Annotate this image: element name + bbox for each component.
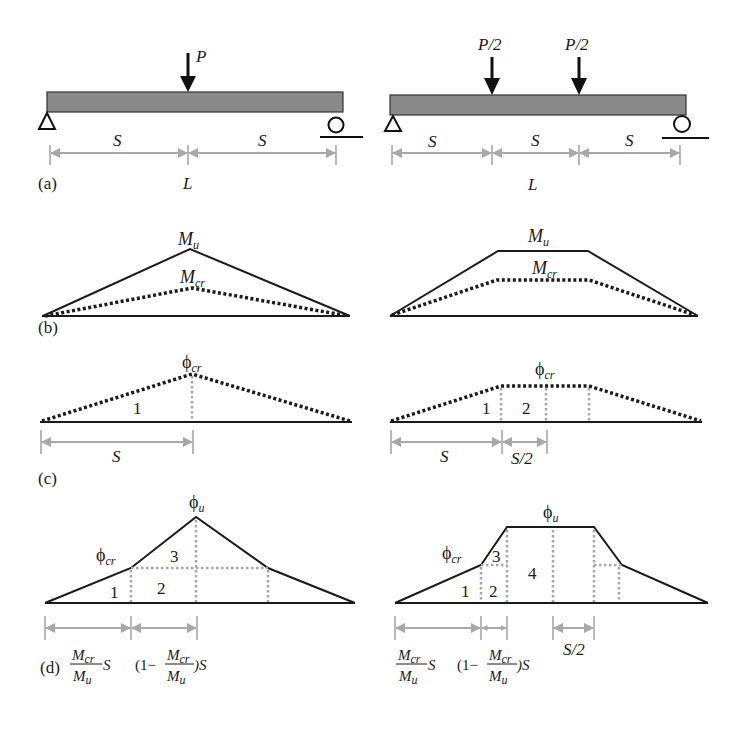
svg-text:Mu: Mu: [166, 668, 186, 687]
beam: [390, 95, 686, 115]
svg-text:Mu: Mu: [72, 668, 92, 687]
span-label: S: [258, 131, 267, 150]
panel-label-c: (c): [38, 469, 57, 488]
region-label: 2: [522, 399, 531, 418]
dim-label: S/2: [511, 449, 533, 468]
phi-cr-label: ϕcr: [96, 545, 116, 568]
load-arrow-icon: [484, 57, 500, 95]
region-label: 3: [170, 547, 179, 566]
dim-label-one-minus-mcr-over-mu-s: (1− Mcr Mu )S: [457, 647, 530, 687]
region-label: 2: [489, 582, 498, 601]
length-label: L: [182, 174, 192, 193]
dim-label-mcr-over-mu-s: Mcr Mu S: [396, 647, 436, 687]
span-label: S: [113, 131, 122, 150]
curvature-line: [395, 527, 708, 603]
panel-b-right-moment-diagram: Mu Mcr: [390, 226, 698, 316]
dim-label-mcr-over-mu-s: Mcr Mu S: [70, 647, 111, 687]
panel-c-right-curvature-diagram: ϕcr 1 2 S S/2: [390, 359, 702, 468]
pin-support-icon: [39, 113, 55, 129]
mcr-label: Mcr: [179, 267, 205, 290]
phi-u-label: ϕu: [543, 502, 558, 525]
panel-a-left-beam: P S S L (a): [38, 47, 363, 193]
load-arrow-icon: [571, 57, 587, 95]
panel-d-left-curvature-diagram: ϕu ϕcr 1 2 3 (d) Mcr Mu S (1− Mcr Mu )S: [40, 492, 355, 687]
svg-text:Mcr: Mcr: [488, 647, 512, 666]
svg-text:(1−: (1−: [135, 657, 156, 674]
dim-label: S: [440, 447, 449, 466]
panel-a-right-beam: P/2 P/2 S S S L: [385, 35, 709, 194]
panel-b-left-moment-diagram: Mu Mcr (b): [38, 229, 350, 337]
svg-text:Mcr: Mcr: [71, 647, 95, 666]
panel-label-a: (a): [38, 174, 57, 193]
dim-label-one-minus-mcr-over-mu-s: (1− Mcr Mu )S: [135, 647, 207, 687]
svg-text:Mcr: Mcr: [166, 647, 190, 666]
beam: [47, 92, 343, 112]
svg-text:)S: )S: [193, 657, 207, 674]
span-label: S: [428, 132, 437, 151]
span-dimension: [50, 145, 336, 165]
roller-support-icon: [320, 118, 363, 138]
region-label: 3: [492, 547, 501, 566]
region-label: 2: [157, 579, 166, 598]
svg-text:Mu: Mu: [398, 668, 418, 687]
length-label: L: [527, 175, 537, 194]
svg-text:S: S: [103, 657, 111, 673]
mu-label: Mu: [527, 226, 549, 249]
mu-label: Mu: [177, 229, 199, 252]
region-label: 1: [482, 399, 491, 418]
svg-text:S: S: [428, 657, 436, 673]
region-label: 1: [110, 583, 119, 602]
beam-curvature-diagram: P S S L (a) P/2 P/2: [0, 0, 742, 729]
phi-cr-label: ϕcr: [442, 543, 462, 566]
phi-cr-label: ϕcr: [535, 359, 555, 382]
curvature-line: [45, 517, 355, 603]
region-label: 1: [461, 582, 470, 601]
panel-d-right-curvature-diagram: ϕu ϕcr 1 2 3 4 S/2 Mcr Mu S (1− Mcr Mu: [395, 502, 708, 687]
roller-support-icon: [662, 116, 709, 138]
load-label: P/2: [564, 35, 589, 54]
svg-text:Mcr: Mcr: [397, 647, 421, 666]
panel-label-b: (b): [38, 318, 58, 337]
region-label: 4: [528, 564, 537, 583]
panel-c-left-curvature-diagram: ϕcr 1 S (c): [38, 352, 352, 488]
svg-text:Mu: Mu: [488, 668, 508, 687]
cracking-moment-line: [392, 280, 695, 315]
dimension: [395, 616, 594, 640]
load-arrow-icon: [180, 53, 196, 92]
phi-cr-label: ϕcr: [182, 352, 202, 375]
dim-label: S/2: [563, 640, 585, 659]
region-label: 1: [133, 399, 142, 418]
span-label: S: [531, 131, 540, 150]
pin-support-icon: [385, 116, 401, 131]
phi-u-label: ϕu: [189, 492, 204, 515]
load-label: P: [195, 47, 206, 66]
span-label: S: [625, 131, 634, 150]
svg-text:(1−: (1−: [457, 657, 478, 674]
dim-label: S: [112, 447, 121, 466]
cracking-curvature-line: [42, 374, 350, 421]
dimension: [45, 616, 197, 640]
load-label: P/2: [477, 35, 502, 54]
mcr-label: Mcr: [531, 258, 557, 281]
panel-label-d: (d): [40, 658, 60, 677]
svg-text:)S: )S: [516, 657, 530, 674]
cracking-moment-line: [45, 288, 348, 316]
